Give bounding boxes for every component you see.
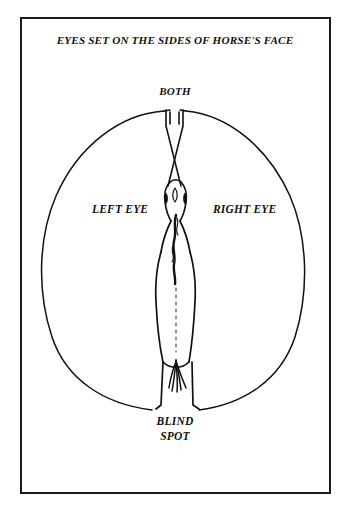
label-blind-spot-line2: SPOT xyxy=(0,429,350,444)
label-blind-spot-line1: BLIND xyxy=(0,414,350,429)
label-left-eye: LEFT EYE xyxy=(92,203,148,215)
label-blind-spot: BLIND SPOT xyxy=(0,414,350,444)
figure-title: EYES SET ON THE SIDES OF HORSE'S FACE xyxy=(0,34,350,46)
label-right-eye: RIGHT EYE xyxy=(213,203,276,215)
figure-root: EYES SET ON THE SIDES OF HORSE'S FACE BO… xyxy=(0,0,350,513)
label-both: BOTH xyxy=(0,85,350,97)
